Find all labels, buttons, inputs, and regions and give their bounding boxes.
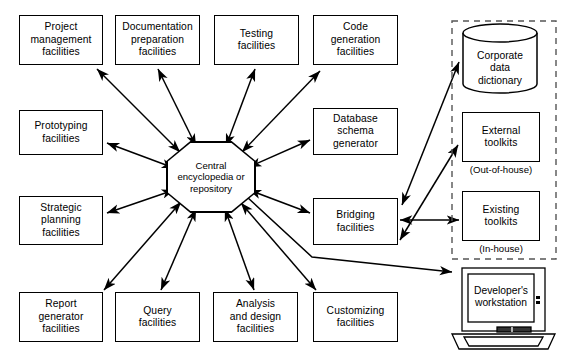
node-project-management[interactable]: Project management facilities — [19, 15, 103, 65]
node-customizing[interactable]: Customizing facilities — [313, 292, 398, 342]
connector-center-database-schema — [249, 140, 310, 167]
node-existing-toolkits[interactable]: Existing toolkits — [462, 191, 540, 241]
connector-center-customizing — [241, 203, 316, 290]
connector-center-report-generator — [104, 202, 181, 290]
node-label: Prototyping facilities — [34, 120, 87, 145]
node-query[interactable]: Query facilities — [115, 292, 200, 342]
node-code-generation[interactable]: Code generation facilities — [313, 15, 398, 65]
connector-center-bridging — [249, 190, 310, 213]
node-label: Code generation facilities — [331, 21, 381, 58]
connector-group-bridging — [400, 62, 459, 240]
connector-center-prototyping — [107, 143, 174, 168]
node-label: External toolkits — [482, 125, 521, 150]
node-label: Existing toolkits — [483, 204, 520, 229]
connector-center-analysis-design — [225, 209, 254, 290]
node-label: Database schema generator — [333, 113, 378, 150]
node-label: Documentation preparation facilities — [122, 21, 193, 58]
node-strategic-planning[interactable]: Strategic planning facilities — [19, 196, 103, 245]
node-label: Project management facilities — [30, 21, 91, 58]
node-label: Central encyclopedia or repository — [168, 160, 255, 194]
node-developer-workstation[interactable] — [452, 266, 556, 351]
node-label: Query facilities — [139, 305, 177, 330]
node-report-generator[interactable]: Report generator facilities — [19, 292, 103, 342]
node-testing[interactable]: Testing facilities — [214, 15, 299, 65]
connector-center-project-management — [97, 69, 180, 152]
node-label: Strategic planning facilities — [40, 202, 82, 239]
node-analysis-and-design[interactable]: Analysis and design facilities — [213, 292, 298, 342]
connector-center-documentation — [158, 69, 196, 146]
node-documentation-preparation[interactable]: Documentation preparation facilities — [115, 15, 200, 65]
node-label: Report generator facilities — [39, 298, 84, 335]
node-label: Testing facilities — [238, 28, 276, 53]
node-corporate-data-dictionary[interactable] — [463, 24, 537, 93]
connector-center-query — [161, 209, 196, 290]
node-central-repository[interactable]: Central encyclopedia or repository — [168, 143, 255, 212]
external-toolkits-caption: (Out-of-house) — [455, 164, 547, 175]
node-bridging-facilities[interactable]: Bridging facilities — [313, 198, 398, 245]
node-label: Analysis and design facilities — [230, 298, 281, 335]
connector-bridging-external-toolkits — [400, 145, 458, 240]
connector-center-testing — [226, 69, 255, 146]
node-prototyping[interactable]: Prototyping facilities — [19, 110, 103, 155]
connector-center-code-generation — [242, 71, 320, 152]
node-external-toolkits[interactable]: External toolkits — [462, 112, 540, 162]
node-label: Bridging facilities — [336, 209, 375, 234]
existing-toolkits-caption: (In-house) — [455, 243, 547, 254]
connector-center-strategic-planning — [107, 190, 174, 213]
connector-bridging-corporate-dictionary — [402, 62, 459, 205]
node-label: Customizing facilities — [327, 305, 385, 330]
node-database-schema-generator[interactable]: Database schema generator — [313, 108, 398, 155]
diagram-canvas: Project management facilities Documentat… — [0, 0, 564, 357]
